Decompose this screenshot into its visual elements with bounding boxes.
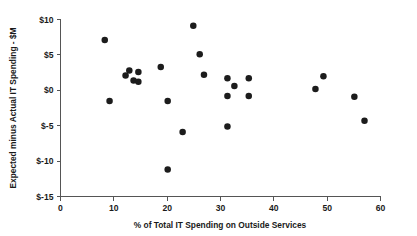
data-point <box>246 75 253 82</box>
data-point <box>135 69 142 76</box>
data-point <box>190 23 197 30</box>
y-tick-label: $-15 <box>36 192 53 202</box>
y-tick-label: $-10 <box>36 156 53 166</box>
data-point <box>179 129 186 136</box>
data-points-layer <box>102 23 368 173</box>
data-point <box>320 73 327 80</box>
x-tick-label: 0 <box>58 203 63 213</box>
x-tick-label: 40 <box>269 203 279 213</box>
data-point <box>158 64 165 71</box>
data-point <box>361 117 368 124</box>
y-axis: $10$5$0$-5$-10$-15 <box>36 15 60 202</box>
data-point <box>201 71 208 78</box>
data-point <box>126 67 133 74</box>
y-tick-label: $0 <box>44 85 54 95</box>
y-tick-label: $5 <box>44 50 54 60</box>
data-point <box>351 93 358 100</box>
data-point <box>231 83 238 90</box>
data-point <box>312 86 319 93</box>
y-tick-label: $10 <box>39 15 54 25</box>
data-point <box>164 98 171 105</box>
plot-area: $10$5$0$-5$-10$-15 0102030405060 % of To… <box>0 0 417 236</box>
x-tick-group: 0102030405060 <box>58 197 385 213</box>
x-tick-label: 10 <box>109 203 119 213</box>
data-point <box>246 93 253 100</box>
x-tick-label: 20 <box>162 203 172 213</box>
scatter-chart: $10$5$0$-5$-10$-15 0102030405060 % of To… <box>0 0 417 236</box>
data-point <box>224 93 231 100</box>
data-point <box>102 37 109 44</box>
x-tick-label: 60 <box>376 203 386 213</box>
x-axis: 0102030405060 <box>58 197 385 213</box>
x-tick-label: 50 <box>322 203 332 213</box>
y-tick-group: $10$5$0$-5$-10$-15 <box>36 15 60 202</box>
y-tick-label: $-5 <box>41 121 54 131</box>
data-point <box>135 79 142 86</box>
data-point <box>196 51 203 58</box>
x-axis-title: % of Total IT Spending on Outside Servic… <box>134 220 307 230</box>
x-tick-label: 30 <box>216 203 226 213</box>
data-point <box>224 75 231 82</box>
data-point <box>164 166 171 173</box>
data-point <box>106 98 113 105</box>
data-point <box>224 123 231 129</box>
y-axis-title: Expected minus Actual IT Spending - $M <box>8 27 18 188</box>
